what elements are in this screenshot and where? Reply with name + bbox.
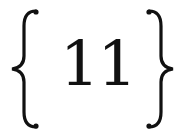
right-curly-brace-icon: [145, 8, 177, 130]
left-curly-brace-icon: [8, 8, 40, 130]
expression-content: 11: [60, 26, 126, 102]
